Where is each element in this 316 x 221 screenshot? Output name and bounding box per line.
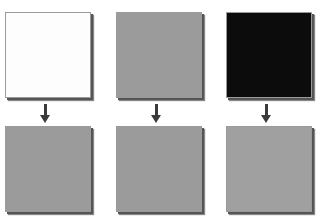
output-square-gray [5, 126, 91, 212]
output-square-gray [226, 126, 312, 212]
down-arrow-icon [40, 104, 52, 124]
input-square-black [226, 12, 312, 98]
input-square-gray [116, 12, 202, 98]
down-arrow-icon [261, 104, 273, 124]
down-arrow-icon [151, 104, 163, 124]
input-square-white [5, 12, 91, 98]
output-square-gray [116, 126, 202, 212]
